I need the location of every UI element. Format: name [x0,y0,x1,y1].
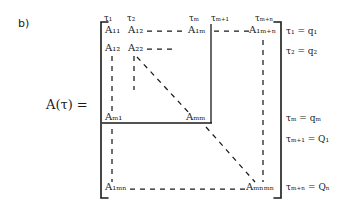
matrix-entry-1m: A₁ₘ [188,25,205,35]
diagonal-upper-block [137,57,190,114]
diagonal-lower-block [206,127,255,182]
matrix-entry-m-plus-n-1: A₁ₘₙ [105,182,127,192]
column-tick-tau-m-plus-1: τₘ₊₁ [211,14,229,23]
matrix-entry-11: A₁₁ [105,25,120,35]
identification-tau-m-plus-n: τₘ₊ₙ = Qₙ [286,183,330,192]
column-tick-tau-m-plus-n: τₘ₊ₙ [255,14,273,23]
matrix-entry-1-m-plus-n: A₁ₘ₊ₙ [249,25,276,35]
identification-tau-m: τₘ = qₘ [286,114,321,123]
identification-tau-2: τ₂ = q₂ [286,47,317,56]
block-matrix-figure: b) A(τ) = [0,0,348,211]
matrix-entry-m-plus-n-m-plus-n: Aₘₙₘₙ [246,182,274,192]
identification-tau-m-plus-1: τₘ₊₁ = Q₁ [286,135,329,144]
column-tick-tau-1: τ₁ [104,14,112,23]
matrix-entry-m1: Aₘ₁ [105,112,122,122]
matrix-entry-22: A₂₂ [128,43,143,53]
matrix-entry-21: A₁₂ [105,43,120,53]
right-bracket [274,22,281,198]
matrix-entry-mm: Aₘₘ [186,112,206,122]
identification-tau-1: τ₁ = q₁ [286,27,317,36]
column-tick-tau-2: τ₂ [127,14,135,23]
column-tick-tau-m: τₘ [189,14,199,23]
matrix-entry-12: A₁₂ [128,25,143,35]
